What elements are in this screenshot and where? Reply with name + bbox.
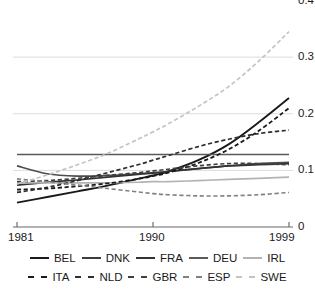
legend-swatch-solid-icon [82, 257, 101, 259]
legend-label: IRL [267, 252, 285, 264]
legend-entry-dnk[interactable]: DNK [82, 252, 130, 264]
axes-group [13, 222, 293, 227]
legend-swatch-dashed-icon [28, 276, 47, 278]
legend-swatch-dashed-icon [183, 276, 202, 278]
x-axis-tick-label: 1999 [269, 231, 295, 243]
legend-swatch-solid-icon [136, 257, 155, 259]
legend-label: DEU [213, 252, 237, 264]
legend-label: ESP [207, 271, 230, 283]
chart-figure: 00.10.20.30.4 198119901999 BELDNKFRADEUI… [0, 0, 315, 290]
legend-swatch-solid-icon [243, 257, 262, 259]
x-axis-tick-label: 1981 [8, 231, 34, 243]
legend-entry-bel[interactable]: BEL [30, 252, 76, 264]
series-line-swe [17, 32, 289, 184]
legend-row-dashed: ITANLDGBRESPSWE [0, 267, 315, 286]
legend-swatch-dashed-icon [75, 276, 94, 278]
y-axis-tick-label: 0 [298, 220, 304, 232]
legend-swatch-dashed-icon [236, 276, 255, 278]
legend-entry-gbr[interactable]: GBR [128, 271, 177, 283]
legend-label: ITA [52, 271, 69, 283]
legend-entry-fra[interactable]: FRA [136, 252, 183, 264]
legend-entry-swe[interactable]: SWE [236, 271, 286, 283]
line-chart-plot [0, 0, 315, 290]
legend-label: BEL [54, 252, 76, 264]
x-axis-tick-label: 1990 [139, 231, 165, 243]
gridlines-group [13, 57, 293, 170]
y-axis-tick-label: 0.2 [298, 107, 314, 119]
legend-label: DNK [106, 252, 130, 264]
legend-entry-ita[interactable]: ITA [28, 271, 69, 283]
chart-legend: BELDNKFRADEUIRL ITANLDGBRESPSWE [0, 248, 315, 290]
y-axis-tick-label: 0.4 [298, 0, 314, 6]
legend-label: SWE [260, 271, 286, 283]
y-axis-tick-label: 0.3 [298, 50, 314, 62]
legend-swatch-dashed-icon [128, 276, 147, 278]
legend-label: NLD [99, 271, 122, 283]
legend-row-solid: BELDNKFRADEUIRL [0, 248, 315, 267]
legend-entry-nld[interactable]: NLD [75, 271, 122, 283]
legend-entry-irl[interactable]: IRL [243, 252, 285, 264]
y-axis-tick-label: 0.1 [298, 163, 314, 175]
legend-entry-esp[interactable]: ESP [183, 271, 230, 283]
legend-entry-deu[interactable]: DEU [189, 252, 237, 264]
legend-swatch-solid-icon [30, 257, 49, 259]
legend-label: GBR [152, 271, 177, 283]
series-line-ita [17, 108, 289, 190]
legend-label: FRA [160, 252, 183, 264]
legend-swatch-solid-icon [189, 257, 208, 259]
